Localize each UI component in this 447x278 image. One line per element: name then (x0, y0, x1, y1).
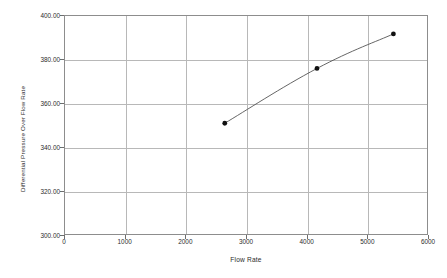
data-point-marker (315, 66, 320, 71)
data-series-layer (64, 15, 428, 235)
chart-container: Differential Pressure Over Flow Rate 300… (0, 0, 447, 278)
y-axis-tick-label: 320.00 (16, 188, 60, 195)
x-axis-title: Flow Rate (64, 256, 428, 263)
x-axis-tick-label: 2000 (160, 238, 210, 245)
x-axis-tick-label: 5000 (342, 238, 392, 245)
y-axis-tick-mark (60, 147, 64, 148)
x-axis-tick-label: 3000 (221, 238, 271, 245)
y-axis-tick-mark (60, 103, 64, 104)
data-point-marker (391, 32, 396, 37)
y-axis-tick-mark (60, 15, 64, 16)
data-point-marker (222, 121, 227, 126)
y-axis-tick-mark (60, 191, 64, 192)
x-axis-tick-label: 6000 (403, 238, 447, 245)
x-axis-tick-label: 4000 (282, 238, 332, 245)
x-axis-tick-label: 1000 (100, 238, 150, 245)
y-axis-tick-label: 380.00 (16, 56, 60, 63)
y-axis-tick-mark (60, 59, 64, 60)
series-line (225, 34, 394, 123)
y-axis-tick-label: 400.00 (16, 12, 60, 19)
y-axis-tick-label: 360.00 (16, 100, 60, 107)
y-axis-tick-label: 340.00 (16, 144, 60, 151)
x-axis-tick-label: 0 (39, 238, 89, 245)
